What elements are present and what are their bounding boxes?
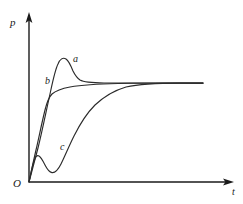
- curve-c: [29, 83, 203, 182]
- figure-canvas: p t O a b c: [0, 0, 243, 204]
- curve-label-a: a: [73, 54, 78, 64]
- x-axis-label: t: [232, 187, 235, 197]
- origin-label: O: [13, 178, 21, 189]
- y-axis: [26, 12, 33, 182]
- curve-a: [29, 58, 203, 182]
- curve-b: [29, 83, 203, 182]
- plot-area: [0, 0, 243, 204]
- curve-label-b: b: [45, 76, 50, 86]
- curve-label-c: c: [60, 142, 64, 152]
- y-axis-label: p: [10, 17, 16, 28]
- x-axis: [29, 179, 234, 186]
